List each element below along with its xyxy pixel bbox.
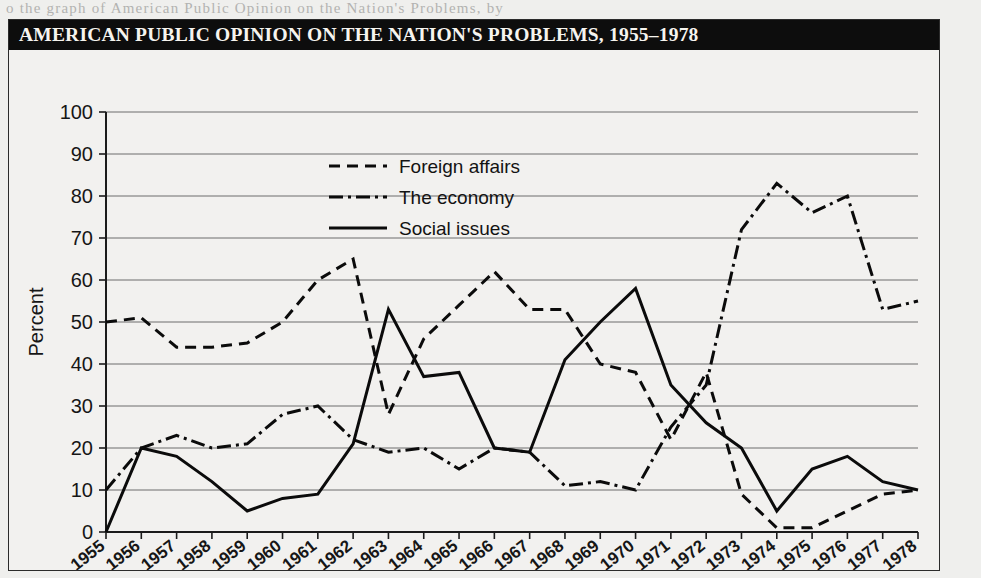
x-axis-tick-label: 1961 [279,536,321,570]
y-axis-tick-label: 60 [71,269,93,291]
y-axis-tick-labels-group: 0102030405060708090100 [60,101,93,543]
legend-label-social-issues: Social issues [399,218,510,239]
x-axis-tick-label: 1967 [491,536,533,570]
x-axis-tick-label: 1963 [349,536,391,570]
x-axis-tick-label: 1965 [420,536,462,570]
page-bleed-text: o the graph of American Public Opinion o… [0,0,981,17]
series-line-social-issues [106,288,918,532]
data-series-group [106,183,918,532]
x-axis-ticks-group [106,532,918,539]
y-axis-tick-label: 10 [71,479,93,501]
figure-title: AMERICAN PUBLIC OPINION ON THE NATION'S … [19,24,699,46]
x-axis-tick-label: 1973 [702,536,744,570]
x-axis-tick-label: 1958 [173,536,215,570]
x-axis-tick-label: 1969 [561,536,603,570]
y-axis-tick-label: 30 [71,395,93,417]
x-axis-tick-label: 1975 [773,536,815,570]
x-axis-tick-label: 1972 [667,536,709,570]
x-axis-tick-label: 1978 [879,536,921,570]
x-axis-tick-label: 1970 [597,536,639,570]
x-axis-tick-label: 1957 [138,536,180,570]
y-axis-tick-label: 40 [71,353,93,375]
y-axis-tick-label: 20 [71,437,93,459]
x-axis-tick-label: 1964 [385,536,427,570]
x-axis-tick-labels-group: 1955195619571958195919601961196219631964… [67,536,921,570]
chart-legend: Foreign affairsThe economySocial issues [329,156,520,239]
x-axis-tick-label: 1977 [844,536,886,570]
x-axis-tick-label: 1960 [243,536,285,570]
y-axis-tick-label: 50 [71,311,93,333]
y-axis-ticks-group [99,112,106,532]
x-axis-tick-label: 1971 [632,536,674,570]
y-axis-tick-label: 70 [71,227,93,249]
x-axis-tick-label: 1966 [455,536,497,570]
x-axis-tick-label: 1968 [526,536,568,570]
line-chart: 0102030405060708090100 19551956195719581… [9,50,939,570]
x-axis-tick-label: 1976 [808,536,850,570]
x-axis-tick-label: 1974 [738,536,780,570]
x-axis-tick-label: 1956 [102,536,144,570]
chart-plot-area: 0102030405060708090100 19551956195719581… [9,50,939,570]
y-axis-tick-label: 100 [60,101,93,123]
x-axis-tick-label: 1962 [314,536,356,570]
y-axis-tick-label: 80 [71,185,93,207]
x-axis-tick-label: 1959 [208,536,250,570]
y-axis-tick-label: 90 [71,143,93,165]
y-axis-title: Percent [25,287,47,356]
series-line-the-economy [106,183,918,490]
figure-title-bar: AMERICAN PUBLIC OPINION ON THE NATION'S … [9,20,939,50]
legend-label-the-economy: The economy [399,187,515,208]
legend-label-foreign-affairs: Foreign affairs [399,156,520,177]
figure-container: AMERICAN PUBLIC OPINION ON THE NATION'S … [8,19,940,571]
